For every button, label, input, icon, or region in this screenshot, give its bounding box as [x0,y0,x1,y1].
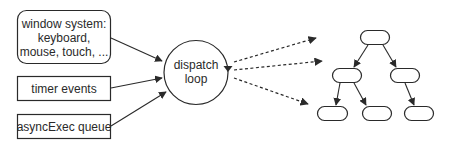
dashed-arrow-to-root [234,38,316,62]
tree-node-leaf-3 [405,107,434,121]
timer-events-box: timer events [18,77,111,101]
tree-node-right-child [391,69,420,83]
tree-edge-right-leaf3 [405,83,414,105]
async-exec-queue-label: asyncExec queue [17,120,112,134]
window-system-label-line3: mouse, touch, ... [20,45,109,59]
window-system-label-line2: keyboard, [38,31,91,45]
tree-edge-root-right [383,45,396,67]
dispatch-loop-label-line2: loop [185,72,208,86]
dispatch-loop-diagram: window system: keyboard, mouse, touch, .… [0,0,450,144]
tree-node-leaf-1 [318,107,348,121]
tree-node-leaf-2 [363,107,392,121]
arrow-timer-to-loop [111,78,162,88]
dashed-arrow-to-leaf [234,78,308,104]
dashed-arrow-to-left-child [234,61,322,70]
tree-edge-left-leaf2 [354,83,366,105]
tree-node-left-child [333,69,362,83]
widget-tree [318,31,434,121]
arrow-window-to-loop [111,38,162,61]
arrow-async-to-loop [111,92,166,126]
timer-events-label: timer events [31,82,96,96]
dispatch-loop-circle: dispatch loop [164,41,233,105]
async-exec-queue-box: asyncExec queue [17,115,112,139]
tree-edge-root-left [354,45,368,67]
dispatch-loop-label-line1: dispatch [174,58,219,72]
tree-node-root [361,31,390,45]
window-system-box: window system: keyboard, mouse, touch, .… [18,11,111,64]
tree-edge-left-leaf1 [336,83,340,105]
window-system-label-line1: window system: [21,17,107,31]
